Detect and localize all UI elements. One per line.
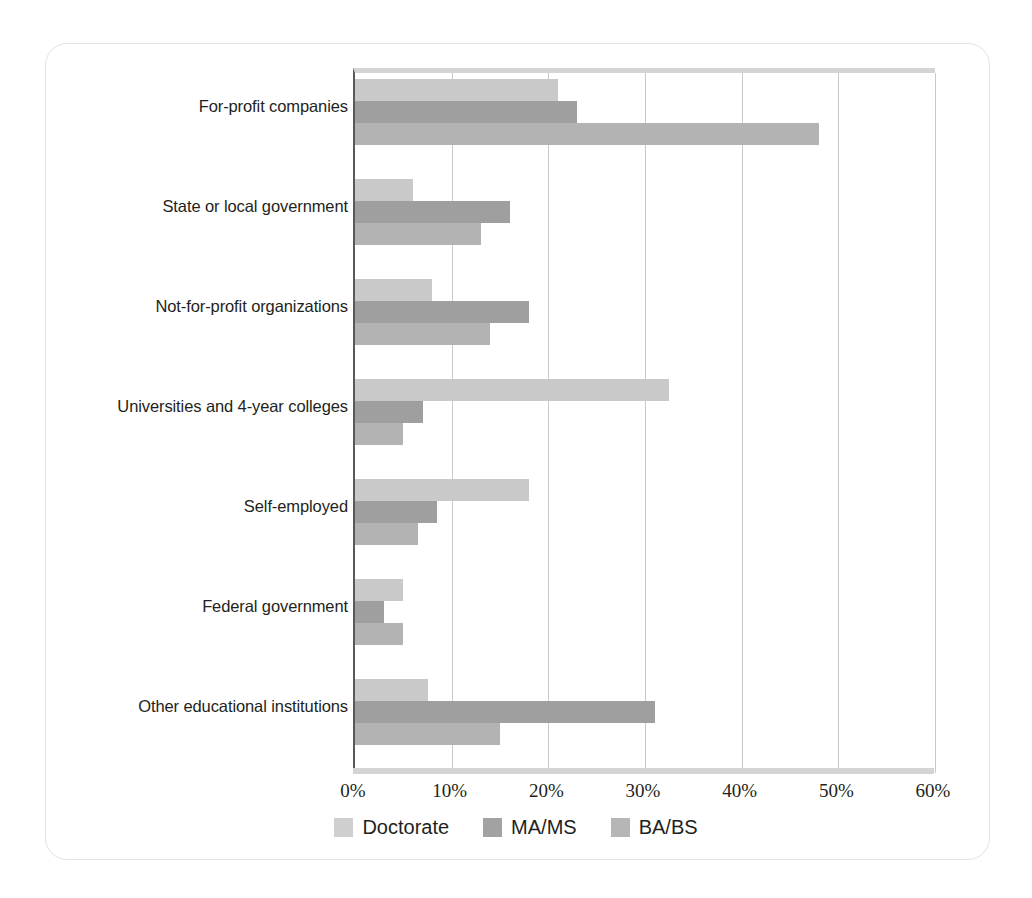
x-tick-label: 10%: [410, 780, 490, 802]
bar: [355, 301, 529, 323]
x-tick-label: 60%: [893, 780, 973, 802]
bar: [355, 179, 413, 201]
bar: [355, 79, 558, 101]
category-label: Universities and 4-year colleges: [60, 397, 348, 416]
bar: [355, 323, 490, 345]
bar: [355, 501, 437, 523]
category-axis-labels: For-profit companiesState or local gover…: [60, 68, 348, 768]
bar: [355, 279, 432, 301]
gridline-50pct: [838, 73, 839, 773]
gridline-40pct: [742, 73, 743, 773]
bar: [355, 701, 655, 723]
bar: [355, 623, 403, 645]
gridline-10pct: [452, 73, 453, 773]
x-tick-label: 0%: [313, 780, 393, 802]
bar: [355, 423, 403, 445]
bar: [355, 201, 510, 223]
gridline-30pct: [645, 73, 646, 773]
x-tick-label: 30%: [603, 780, 683, 802]
legend-swatch-icon: [334, 818, 353, 837]
bar: [355, 523, 418, 545]
plot-inner: [355, 73, 935, 773]
category-label: Federal government: [60, 597, 348, 616]
legend-swatch-icon: [483, 818, 502, 837]
grouped-bar-chart: For-profit companiesState or local gover…: [0, 0, 1032, 898]
legend-label: BA/BS: [639, 816, 698, 839]
gridline-20pct: [548, 73, 549, 773]
bar: [355, 101, 577, 123]
bar: [355, 379, 669, 401]
category-label: Self-employed: [60, 497, 348, 516]
bar: [355, 401, 423, 423]
category-label: For-profit companies: [60, 97, 348, 116]
legend-item[interactable]: BA/BS: [611, 816, 698, 839]
chart-legend: DoctorateMA/MSBA/BS: [0, 812, 1032, 842]
bar: [355, 723, 500, 745]
x-tick-label: 50%: [796, 780, 876, 802]
bar: [355, 123, 819, 145]
legend-label: MA/MS: [511, 816, 577, 839]
bar: [355, 679, 428, 701]
category-label: State or local government: [60, 197, 348, 216]
category-label: Other educational institutions: [60, 697, 348, 716]
x-tick-label: 20%: [506, 780, 586, 802]
category-label: Not-for-profit organizations: [60, 297, 348, 316]
x-axis-line: [353, 768, 934, 774]
x-tick-label: 40%: [700, 780, 780, 802]
gridline-60pct: [935, 73, 936, 773]
legend-label: Doctorate: [362, 816, 449, 839]
x-axis-tick-labels: 0%10%20%30%40%50%60%: [0, 780, 1032, 810]
bar: [355, 601, 384, 623]
plot-area: [353, 68, 935, 773]
bar: [355, 579, 403, 601]
legend-swatch-icon: [611, 818, 630, 837]
legend-item[interactable]: Doctorate: [334, 816, 449, 839]
bar: [355, 479, 529, 501]
legend-item[interactable]: MA/MS: [483, 816, 577, 839]
bar: [355, 223, 481, 245]
